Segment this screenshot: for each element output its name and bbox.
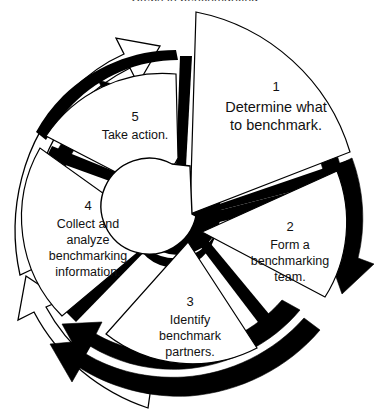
segment-1-number: 1 xyxy=(272,79,279,94)
segment-3-line-1: Identify xyxy=(170,313,211,327)
segment-3-line-2: benchmark xyxy=(159,329,222,343)
segment-4-line-1: Collect and xyxy=(57,217,120,231)
segment-4-line-2: analyze xyxy=(66,233,109,247)
segment-5-line-1: Take action. xyxy=(102,128,169,142)
spoke-shadow-5-1 xyxy=(176,56,192,166)
segment-2-line-3: team. xyxy=(274,270,305,284)
segment-4-number: 4 xyxy=(84,198,91,213)
segment-5-number: 5 xyxy=(131,109,138,124)
segment-4-line-4: information. xyxy=(55,265,120,279)
segment-2-line-1: Form a xyxy=(270,238,310,252)
wheel-hub[interactable] xyxy=(101,158,196,254)
segment-3-number: 3 xyxy=(186,294,193,309)
segment-3-line-3: partners. xyxy=(165,345,214,359)
segment-2-line-2: benchmarking xyxy=(251,254,330,268)
figure-caption-clipped: Steps in benchmarking xyxy=(0,0,390,1)
segment-1-line-1: Determine what xyxy=(225,99,327,115)
benchmarking-wheel-svg: 1 Determine what to benchmark. 2 Form a … xyxy=(0,0,390,420)
segment-4-line-3: benchmarking xyxy=(49,249,128,263)
segment-2-number: 2 xyxy=(286,219,293,234)
segment-1-line-2: to benchmark. xyxy=(230,117,322,133)
benchmarking-wheel-figure: Steps in benchmarking xyxy=(0,0,390,420)
